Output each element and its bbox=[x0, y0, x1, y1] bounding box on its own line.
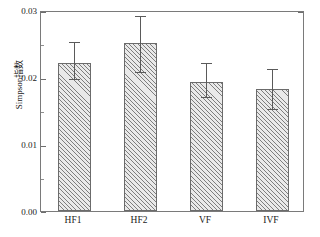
y-tick-minor-0.025 bbox=[41, 45, 44, 46]
x-axis-tick-labels: HF1 HF2 VF IVF bbox=[40, 215, 304, 235]
error-bar-ivf bbox=[272, 69, 273, 109]
x-tick-label-vf: VF bbox=[172, 215, 238, 226]
simpson-index-bar-chart: Simpson指数 0.03 0.02 0.01 0.00 bbox=[0, 0, 320, 237]
y-tick-major-0.01 bbox=[41, 146, 46, 147]
y-tick-major-0.03 bbox=[41, 12, 46, 13]
error-cap-bottom-vf bbox=[201, 97, 212, 98]
y-tick-major-0.00 bbox=[41, 212, 46, 213]
x-tick-label-hf1: HF1 bbox=[40, 215, 106, 226]
error-bar-hf2 bbox=[140, 16, 141, 72]
error-cap-top-vf bbox=[201, 63, 212, 64]
error-cap-top-ivf bbox=[267, 69, 278, 70]
y-tick-label-0.01: 0.01 bbox=[3, 141, 37, 150]
error-cap-bottom-hf1 bbox=[69, 79, 80, 80]
y-tick-major-0.02 bbox=[41, 79, 46, 80]
error-bar-vf bbox=[206, 63, 207, 97]
y-axis-tick-labels: 0.03 0.02 0.01 0.00 bbox=[0, 0, 37, 237]
error-bar-hf1 bbox=[74, 42, 75, 79]
y-tick-label-0.00: 0.00 bbox=[3, 208, 37, 217]
bar-hf1 bbox=[58, 63, 91, 211]
error-cap-bottom-hf2 bbox=[135, 72, 146, 73]
y-tick-major-right-0.03 bbox=[298, 12, 303, 13]
y-tick-minor-0.005 bbox=[41, 179, 44, 180]
y-tick-label-0.03: 0.03 bbox=[3, 7, 37, 16]
bar-vf bbox=[190, 82, 223, 211]
error-cap-bottom-ivf bbox=[267, 109, 278, 110]
error-cap-top-hf2 bbox=[135, 16, 146, 17]
y-tick-minor-0.015 bbox=[41, 112, 44, 113]
y-tick-label-0.02: 0.02 bbox=[3, 74, 37, 83]
x-tick-label-hf2: HF2 bbox=[106, 215, 172, 226]
x-tick-label-ivf: IVF bbox=[238, 215, 304, 226]
error-cap-top-hf1 bbox=[69, 42, 80, 43]
plot-area bbox=[40, 11, 304, 212]
